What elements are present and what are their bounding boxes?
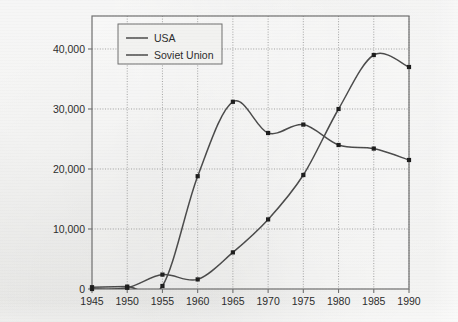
data-point-marker (90, 287, 94, 291)
x-axis-tick-label: 1985 (362, 295, 386, 307)
line-chart: 1945195019551960196519701975198019851990… (0, 0, 458, 322)
data-point-marker (196, 277, 200, 281)
x-axis-tick-label: 1955 (151, 295, 175, 307)
data-point-marker (372, 147, 376, 151)
y-axis-tick-label: 10,000 (53, 223, 85, 235)
x-axis-tick-label: 1945 (80, 295, 104, 307)
data-point-marker (407, 158, 411, 162)
y-axis-tick-label: 30,000 (53, 103, 85, 115)
data-point-marker (336, 143, 340, 147)
x-axis-tick-label: 1950 (116, 295, 140, 307)
x-axis-tick-label: 1980 (327, 295, 351, 307)
x-axis-tick-label: 1975 (292, 295, 316, 307)
data-point-marker (160, 273, 164, 277)
data-point-marker (160, 284, 164, 288)
data-point-marker (372, 53, 376, 57)
data-point-marker (407, 65, 411, 69)
legend-label-soviet-union: Soviet Union (154, 49, 214, 61)
y-axis-tick-label: 40,000 (53, 43, 85, 55)
legend-label-usa: USA (154, 32, 176, 44)
data-point-marker (231, 250, 235, 254)
x-axis-tick-label: 1990 (397, 295, 421, 307)
chart-figure: 1945195019551960196519701975198019851990… (0, 0, 458, 322)
x-axis-tick-label: 1960 (186, 295, 210, 307)
data-point-marker (336, 107, 340, 111)
data-point-marker (196, 174, 200, 178)
data-point-marker (231, 100, 235, 104)
data-point-marker (266, 131, 270, 135)
y-axis-tick-label: 0 (79, 283, 85, 295)
x-axis-tick-label: 1970 (256, 295, 280, 307)
y-axis-tick-label: 20,000 (53, 163, 85, 175)
x-axis-tick-label: 1965 (221, 295, 245, 307)
data-point-marker (266, 217, 270, 221)
data-point-marker (301, 173, 305, 177)
data-point-marker (301, 123, 305, 127)
data-point-marker (125, 286, 129, 290)
